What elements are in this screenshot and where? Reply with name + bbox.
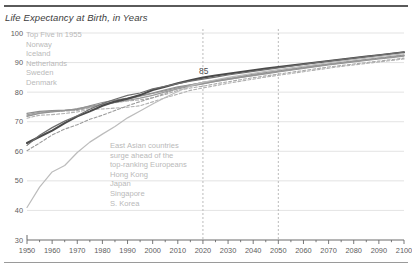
y-axis-tick-label: 30 xyxy=(15,236,23,245)
annotation-line: Sweden xyxy=(26,68,82,78)
annotation-line: surge ahead of the xyxy=(110,151,187,161)
y-axis-tick-label: 100 xyxy=(11,29,23,38)
x-axis-tick-label: 1950 xyxy=(19,246,35,255)
x-axis-tick-label: 1990 xyxy=(119,246,135,255)
x-axis-tick-label: 2030 xyxy=(220,246,236,255)
annotation-line: Iceland xyxy=(26,49,82,59)
x-axis-tick-label: 2050 xyxy=(270,246,286,255)
x-axis-tick-label: 2060 xyxy=(295,246,311,255)
x-axis-tick-label: 1960 xyxy=(44,246,60,255)
annotation-line: Norway xyxy=(26,40,82,50)
annotation-line: East Asian countries xyxy=(110,141,187,151)
bottom-divider xyxy=(4,262,408,263)
annotation-line: Denmark xyxy=(26,78,82,88)
annotation-line: Hong Kong xyxy=(110,170,187,180)
x-axis-tick-label: 2010 xyxy=(170,246,186,255)
annotation-line: Top Five in 1955 xyxy=(26,30,82,40)
annotation-value-85: 85 xyxy=(199,66,208,76)
annotation-top-five-europe: Top Five in 1955NorwayIcelandNetherlands… xyxy=(26,30,82,88)
annotation-east-asia: East Asian countriessurge ahead of theto… xyxy=(110,141,187,208)
x-axis-tick-label: 1980 xyxy=(94,246,110,255)
y-axis-tick-label: 40 xyxy=(15,206,23,215)
y-axis-tick-label: 80 xyxy=(15,88,23,97)
y-axis-tick-label: 50 xyxy=(15,176,23,185)
y-axis-tick-label: 70 xyxy=(15,117,23,126)
x-axis-tick-label: 2090 xyxy=(371,246,387,255)
y-axis-tick-label: 60 xyxy=(15,147,23,156)
x-axis-tick-label: 2080 xyxy=(346,246,362,255)
x-axis-tick-label: 1970 xyxy=(69,246,85,255)
annotation-line: top-ranking Europeans xyxy=(110,160,187,170)
y-axis-tick-label: 90 xyxy=(15,58,23,67)
annotation-line: Netherlands xyxy=(26,59,82,69)
annotation-line: Singapore xyxy=(110,189,187,199)
x-axis-tick-label: 2000 xyxy=(144,246,160,255)
series-line-singapore xyxy=(27,55,404,151)
x-axis-tick-label: 2040 xyxy=(245,246,261,255)
x-axis-tick-label: 2070 xyxy=(320,246,336,255)
annotation-line: S. Korea xyxy=(110,199,187,209)
x-axis-tick-label: 2100 xyxy=(396,246,412,255)
annotation-line: Japan xyxy=(110,179,187,189)
x-axis-tick-label: 2020 xyxy=(195,246,211,255)
